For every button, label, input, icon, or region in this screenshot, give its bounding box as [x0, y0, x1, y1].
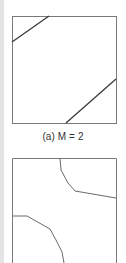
panel-a-boundary-line-1 [12, 16, 49, 42]
panel-a [12, 16, 117, 124]
panel-b-frame [13, 159, 117, 263]
panel-a-frame [13, 17, 117, 124]
panel-b-boundary-curve-2 [12, 216, 64, 263]
panel-a-caption: (a) M = 2 [0, 130, 126, 144]
panel-b-boundary-curve-1 [60, 158, 116, 198]
panel-b [12, 158, 117, 263]
panel-a-boundary-line-2 [66, 79, 116, 123]
